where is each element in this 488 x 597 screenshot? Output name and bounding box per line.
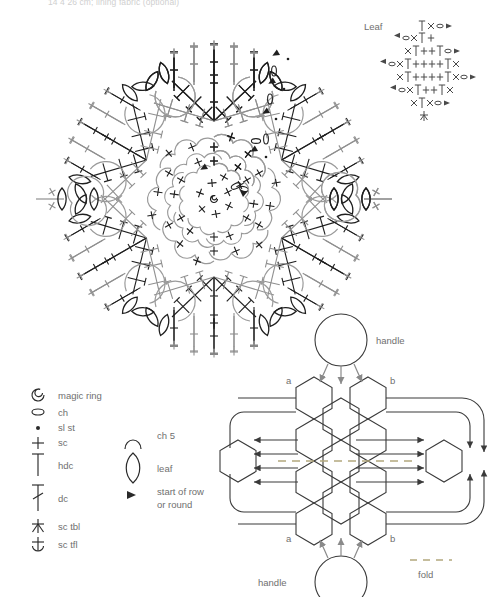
hexagon-cell	[350, 503, 386, 545]
legend-label-hdc: hdc	[58, 460, 74, 471]
hexagon-cell	[350, 377, 386, 419]
leaf-row-1	[419, 21, 452, 31]
corner-label-bottom-left: a	[286, 533, 292, 544]
leaf-row-2	[394, 33, 434, 43]
round-2-chain-scallops	[170, 159, 258, 240]
leaf-row-5	[397, 72, 476, 82]
sl-st-icon	[36, 426, 40, 430]
sc-tbl-icon	[32, 519, 44, 533]
legend-label-sc: sc	[58, 437, 68, 448]
legend-label-sl-st: sl st	[58, 422, 75, 433]
leaf-row-6	[390, 85, 453, 95]
corner-label-top-left: a	[286, 375, 292, 386]
fold-key-label: fold	[418, 569, 433, 580]
dc-icon	[32, 485, 44, 511]
leaf-icon	[126, 453, 140, 483]
handle-bottom-label: handle	[258, 577, 287, 588]
dc-ray-fans	[71, 69, 356, 329]
leaf-row-4	[380, 59, 459, 69]
hexagon-cell	[296, 419, 332, 461]
hexagon-cell	[323, 482, 359, 524]
ch5-arc-icon	[125, 440, 141, 449]
magic-ring-icon	[32, 389, 44, 401]
hexagon-cell	[296, 377, 332, 419]
legend-label-dc: dc	[58, 493, 68, 504]
hexagon-cell-detached	[426, 440, 462, 482]
hexagon-cell	[296, 461, 332, 503]
sc-icon	[32, 437, 44, 449]
leaf-row-7	[411, 98, 450, 108]
legend-label-leaf: leaf	[157, 463, 173, 474]
legend-label-start-line2: or round	[157, 499, 192, 510]
hexagon-cell	[323, 398, 359, 440]
mid-round-sc-stitches	[135, 131, 292, 268]
leaf-stitch-chart: Leaf	[360, 8, 488, 128]
round-1-sc-ring	[195, 171, 246, 218]
leaf-chart-title: Leaf	[364, 21, 383, 32]
leaf-row-8	[420, 111, 428, 121]
legend-label-start-line1: start of row	[157, 486, 204, 497]
sc-tfl-icon	[32, 537, 44, 551]
hdc-icon	[32, 454, 44, 476]
corner-label-top-right: b	[390, 375, 395, 386]
start-triangle-icon	[127, 491, 136, 499]
legend: magic ring ch sl st sc hdc dc sc tbl sc …	[0, 385, 250, 550]
leaf-row-3	[405, 46, 460, 56]
assembly-diagram: handle handle a b a b fold	[248, 352, 488, 597]
legend-label-sc-tbl: sc tbl	[58, 521, 80, 532]
handle-bottom	[315, 538, 367, 597]
handle-top-label: handle	[376, 335, 405, 346]
legend-label-ch5: ch 5	[157, 430, 175, 441]
ch-icon	[32, 409, 44, 415]
legend-label-sc-tfl: sc tfl	[58, 539, 78, 550]
top-note: 14 4 26 cm; lining fabric (optional)	[48, 0, 179, 7]
magic-ring-center	[211, 195, 218, 202]
legend-label-magic-ring: magic ring	[58, 390, 102, 401]
round-1-start-arrow	[238, 188, 247, 197]
hexagon-cell	[296, 503, 332, 545]
start-of-round-markers	[199, 49, 290, 172]
fold-key: fold	[410, 560, 452, 580]
corner-label-bottom-right: b	[390, 533, 395, 544]
assembly-arrows-right	[356, 398, 484, 524]
legend-label-ch: ch	[58, 407, 68, 418]
